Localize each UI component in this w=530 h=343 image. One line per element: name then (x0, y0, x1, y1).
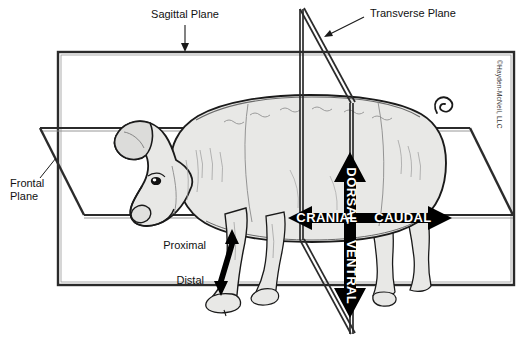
figure-canvas: DORSAL VENTRAL CRANIAL CAUDAL Proximal D… (0, 0, 530, 343)
label-frontal-plane-line2: Plane (10, 190, 38, 202)
label-cranial: CRANIAL (296, 210, 357, 225)
label-transverse-plane: Transverse Plane (370, 7, 456, 19)
anatomical-planes-diagram: DORSAL VENTRAL CRANIAL CAUDAL Proximal D… (0, 0, 530, 343)
copyright-notice: ©Hayden-McNeil, LLC (495, 60, 503, 129)
label-frontal-plane-line1: Frontal (10, 177, 44, 189)
label-distal: Distal (176, 274, 204, 286)
label-caudal: CAUDAL (374, 210, 431, 225)
sagittal-plane-label-group: Sagittal Plane (151, 8, 219, 52)
copyright-text: ©Hayden-McNeil, LLC (495, 60, 503, 129)
frontal-plane-label-group: Frontal Plane (10, 158, 56, 202)
transverse-plane-label-group: Transverse Plane (324, 7, 456, 37)
label-ventral: VENTRAL (344, 240, 359, 304)
pig-tail (435, 97, 452, 113)
label-sagittal-plane: Sagittal Plane (151, 8, 219, 20)
label-proximal: Proximal (163, 239, 206, 251)
